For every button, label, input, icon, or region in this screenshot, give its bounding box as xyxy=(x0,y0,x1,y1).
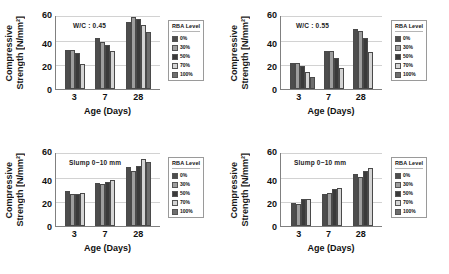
legend-swatch-icon xyxy=(395,72,401,78)
bar-group xyxy=(353,153,373,226)
chart-panel-top-right: CompressiveStrength [N/mm²]6040200W/C : … xyxy=(225,0,449,137)
legend-item[interactable]: 30% xyxy=(172,182,200,188)
chart-panel-bottom-right: CompressiveStrength [N/mm²]6040200Slump … xyxy=(225,137,449,274)
legend-item[interactable]: 70% xyxy=(395,63,423,69)
legend-item[interactable]: 30% xyxy=(172,45,200,51)
legend-item[interactable]: 0% xyxy=(172,173,200,179)
y-axis-tick-label: 0 xyxy=(272,223,277,232)
legend-item-label: 70% xyxy=(180,63,190,68)
x-axis-title: Age (Days) xyxy=(280,106,382,116)
y-axis-title-line1: Compressive xyxy=(229,162,239,219)
legend-item[interactable]: 70% xyxy=(395,200,423,206)
x-axis-tick-label: 28 xyxy=(356,92,366,102)
bar xyxy=(110,180,115,226)
legend: RBA Level0%30%50%70%100% xyxy=(168,157,204,218)
legend-swatch-icon xyxy=(172,63,178,69)
legend-item-label: 70% xyxy=(403,200,413,205)
legend-item[interactable]: 100% xyxy=(172,72,200,78)
y-axis-title-line1: Compressive xyxy=(4,25,14,82)
legend-item[interactable]: 100% xyxy=(395,72,423,78)
y-axis-title: CompressiveStrength [N/mm²] xyxy=(4,145,25,235)
y-axis-tick-label: 20 xyxy=(267,200,277,209)
legend-item[interactable]: 30% xyxy=(395,182,423,188)
legend-item[interactable]: 0% xyxy=(172,36,200,42)
x-axis-tick-label: 7 xyxy=(326,92,331,102)
bar xyxy=(146,162,151,226)
x-axis-tick-label: 3 xyxy=(72,229,77,239)
y-axis-tick-label: 60 xyxy=(267,148,277,157)
legend: RBA Level0%30%50%70%100% xyxy=(168,20,204,81)
legend-swatch-icon xyxy=(172,72,178,78)
legend-item-label: 100% xyxy=(403,72,416,77)
plot-area: Slump 0~10 mm xyxy=(55,153,160,227)
bar-group xyxy=(126,153,151,226)
x-axis-tick-label: 3 xyxy=(296,92,301,102)
bar xyxy=(339,68,344,89)
bar xyxy=(337,188,342,226)
y-axis-tick-label: 60 xyxy=(267,11,277,20)
y-axis-tick-labels: 6040200 xyxy=(33,149,52,227)
legend-title: RBA Level xyxy=(172,23,200,32)
legend-item-label: 70% xyxy=(180,200,190,205)
bar-group xyxy=(126,16,151,89)
figure-grid: CompressiveStrength [N/mm²]6040200W/C : … xyxy=(0,0,449,274)
y-axis-title-line1: Compressive xyxy=(4,162,14,219)
legend-item[interactable]: 70% xyxy=(172,63,200,69)
y-axis-tick-labels: 6040200 xyxy=(258,12,277,90)
legend-swatch-icon xyxy=(172,191,178,197)
bar xyxy=(146,32,151,89)
legend-swatch-icon xyxy=(395,45,401,51)
y-axis-tick-label: 20 xyxy=(267,63,277,72)
y-axis-tick-label: 0 xyxy=(272,86,277,95)
legend-item-label: 0% xyxy=(180,173,187,178)
legend-item[interactable]: 50% xyxy=(172,191,200,197)
legend-item-label: 0% xyxy=(403,36,410,41)
y-axis-title-line2: Strength [N/mm²] xyxy=(240,153,250,227)
plot-area: W/C : 0.45 xyxy=(55,16,160,90)
legend-item-label: 0% xyxy=(403,173,410,178)
legend-item-label: 50% xyxy=(180,54,190,59)
y-axis-tick-label: 60 xyxy=(42,148,52,157)
bar xyxy=(80,193,85,226)
legend-item-label: 100% xyxy=(403,209,416,214)
legend-swatch-icon xyxy=(172,209,178,215)
plot-area: Slump 0~10 mm xyxy=(280,153,382,227)
y-axis-tick-label: 40 xyxy=(267,177,277,186)
legend-item-label: 50% xyxy=(180,191,190,196)
x-axis-tick-labels: 3728 xyxy=(280,229,382,239)
y-axis-tick-label: 40 xyxy=(42,40,52,49)
legend-item[interactable]: 100% xyxy=(172,209,200,215)
legend-item[interactable]: 50% xyxy=(395,54,423,60)
legend-item[interactable]: 0% xyxy=(395,173,423,179)
legend-item-label: 100% xyxy=(180,209,193,214)
y-axis-tick-label: 40 xyxy=(42,177,52,186)
legend-item-label: 0% xyxy=(180,36,187,41)
legend-title: RBA Level xyxy=(395,23,423,32)
legend-swatch-icon xyxy=(395,182,401,188)
legend-item-label: 30% xyxy=(403,182,413,187)
legend-item[interactable]: 50% xyxy=(395,191,423,197)
legend-item-label: 70% xyxy=(403,63,413,68)
legend-item[interactable]: 70% xyxy=(172,200,200,206)
x-axis-tick-label: 28 xyxy=(133,92,143,102)
panel-annotation: Slump 0~10 mm xyxy=(294,159,346,166)
legend-item[interactable]: 100% xyxy=(395,209,423,215)
panel-annotation: W/C : 0.45 xyxy=(73,22,106,29)
chart-panel-top-left: CompressiveStrength [N/mm²]6040200W/C : … xyxy=(0,0,225,137)
x-axis-tick-label: 7 xyxy=(326,229,331,239)
y-axis-title-line2: Strength [N/mm²] xyxy=(15,153,25,227)
panel-annotation: Slump 0~10 mm xyxy=(69,159,121,166)
legend-title: RBA Level xyxy=(395,160,423,169)
legend-item[interactable]: 50% xyxy=(172,54,200,60)
plot-area: W/C : 0.55 xyxy=(280,16,382,90)
y-axis-title: CompressiveStrength [N/mm²] xyxy=(4,8,25,98)
legend-item-label: 100% xyxy=(180,72,193,77)
x-axis-tick-labels: 3728 xyxy=(280,92,382,102)
y-axis-tick-label: 20 xyxy=(42,63,52,72)
bar xyxy=(368,168,373,226)
legend-item-label: 30% xyxy=(180,182,190,187)
x-axis-title: Age (Days) xyxy=(280,243,382,253)
legend-item[interactable]: 0% xyxy=(395,36,423,42)
legend-item-label: 30% xyxy=(180,45,190,50)
legend-item[interactable]: 30% xyxy=(395,45,423,51)
